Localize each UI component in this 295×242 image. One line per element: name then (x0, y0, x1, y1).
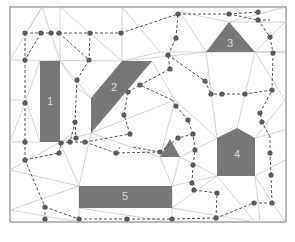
graph-node (48, 30, 53, 35)
graph-node (42, 204, 47, 209)
graph-node (22, 139, 27, 144)
graph-node (22, 30, 27, 35)
graph-node (56, 150, 61, 155)
graph-node (190, 162, 195, 167)
graph-node (202, 78, 207, 83)
graph-node (82, 139, 87, 144)
graph-node (58, 140, 63, 145)
graph-node (121, 112, 126, 117)
graph-node (173, 35, 178, 40)
graph-node (175, 135, 180, 140)
graph-node (113, 150, 118, 155)
graph-node (259, 119, 264, 124)
graph-node (269, 200, 274, 205)
graph-node (191, 187, 196, 192)
graph-node (157, 149, 162, 154)
graph-node (38, 30, 43, 35)
graph-node (267, 150, 272, 155)
graph-node (269, 87, 274, 92)
graph-node (165, 52, 170, 57)
graph-node (257, 110, 262, 115)
graph-node (22, 100, 27, 105)
graph-node (175, 11, 180, 16)
graph-node (137, 82, 142, 87)
obstacle-label-3: 3 (227, 37, 233, 49)
graph-node (242, 91, 247, 96)
graph-node (189, 180, 194, 185)
graph-node (214, 190, 219, 195)
graph-node (56, 30, 61, 35)
graph-node (124, 216, 129, 221)
graph-node (185, 117, 190, 122)
graph-node (226, 11, 231, 16)
graph-node (67, 139, 72, 144)
graph-node (255, 17, 260, 22)
obstacle-label-1: 1 (47, 95, 53, 107)
graph-node (268, 172, 273, 177)
graph-node (127, 131, 132, 136)
graph-node (255, 9, 260, 14)
graph-node (125, 89, 130, 94)
graph-node (72, 119, 77, 124)
graph-node (270, 50, 275, 55)
graph-node (167, 66, 172, 71)
graph-node (208, 91, 213, 96)
graph-node (192, 147, 197, 152)
graph-node (74, 77, 79, 82)
graph-node (251, 200, 256, 205)
graph-node (86, 57, 91, 62)
obstacle-label-4: 4 (234, 148, 240, 160)
graph-node (190, 131, 195, 136)
graph-node (22, 157, 27, 162)
graph-node (213, 215, 218, 220)
obstacle-label-2: 2 (111, 81, 117, 93)
obstacle-label-5: 5 (122, 190, 128, 202)
graph-node (267, 34, 272, 39)
graph-node (73, 135, 78, 140)
graph-node (219, 91, 224, 96)
graph-node (169, 216, 174, 221)
graph-node (76, 216, 81, 221)
graph-node (22, 57, 27, 62)
graph-node (42, 216, 47, 221)
graph-node (87, 30, 92, 35)
roadmap-diagram: 12345 (0, 0, 295, 242)
graph-node (173, 103, 178, 108)
graph-node (118, 30, 123, 35)
